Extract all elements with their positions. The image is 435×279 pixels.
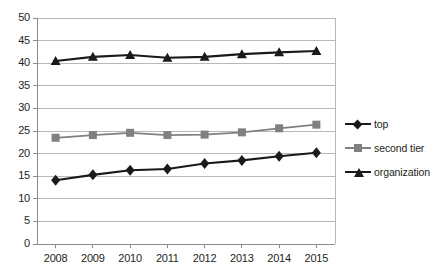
diamond-marker-icon xyxy=(163,163,172,174)
legend-item-top[interactable]: top xyxy=(345,112,435,136)
chart-screenshot: 0510152025303540455020082009201020112012… xyxy=(0,0,435,279)
diamond-marker-icon xyxy=(200,158,209,169)
y-axis-label: 0 xyxy=(8,237,30,249)
diamond-marker-icon xyxy=(312,147,321,158)
x-axis-label: 2011 xyxy=(149,252,185,264)
diamond-marker-icon xyxy=(353,120,363,130)
legend-label-organization: organization xyxy=(374,166,430,178)
x-axis-label: 2010 xyxy=(112,252,148,264)
x-axis-label: 2008 xyxy=(38,252,74,264)
legend-label-top: top xyxy=(374,118,388,130)
legend-item-second-tier[interactable]: second tier xyxy=(345,136,435,160)
y-axis-label: 10 xyxy=(8,192,30,204)
diamond-marker-icon xyxy=(237,155,246,166)
y-axis-label: 50 xyxy=(8,11,30,23)
x-axis-label: 2012 xyxy=(187,252,223,264)
diamond-marker-icon xyxy=(126,165,135,176)
x-axis-label: 2009 xyxy=(75,252,111,264)
y-axis-label: 45 xyxy=(8,34,30,46)
legend-swatch-top xyxy=(345,118,371,130)
y-axis-label: 25 xyxy=(8,124,30,136)
y-axis-label: 5 xyxy=(8,214,30,226)
diamond-marker-icon xyxy=(88,169,97,180)
triangle-marker-icon xyxy=(354,168,364,177)
x-axis-label: 2015 xyxy=(298,252,334,264)
y-axis-label: 35 xyxy=(8,79,30,91)
square-marker-icon xyxy=(312,121,320,129)
legend-swatch-second-tier xyxy=(345,142,371,154)
square-marker-icon xyxy=(275,124,283,132)
y-axis-label: 30 xyxy=(8,101,30,113)
square-marker-icon xyxy=(201,131,209,139)
chart-legend: top second tier organization xyxy=(345,112,435,184)
x-axis-label: 2013 xyxy=(224,252,260,264)
square-marker-icon xyxy=(238,128,246,136)
y-axis-label: 40 xyxy=(8,56,30,68)
square-marker-icon xyxy=(52,134,60,142)
x-axis-label: 2014 xyxy=(261,252,297,264)
square-marker-icon xyxy=(126,129,134,137)
y-axis-label: 15 xyxy=(8,169,30,181)
square-marker-icon xyxy=(89,131,97,139)
diamond-marker-icon xyxy=(275,151,284,162)
square-marker-icon xyxy=(354,144,362,152)
legend-item-organization[interactable]: organization xyxy=(345,160,435,184)
y-axis-label: 20 xyxy=(8,147,30,159)
square-marker-icon xyxy=(163,131,171,139)
legend-swatch-organization xyxy=(345,166,371,178)
legend-label-second-tier: second tier xyxy=(374,142,424,154)
